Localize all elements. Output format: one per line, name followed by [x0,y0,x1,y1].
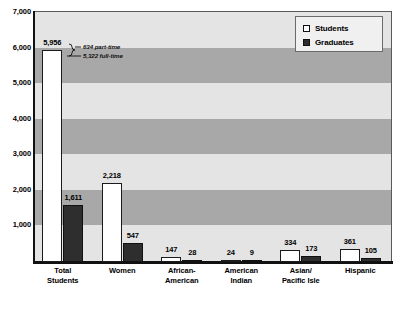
category-label-line: American [212,266,272,276]
bar-value-students-0: 5,956 [36,38,68,47]
bar-graduates-0 [63,205,83,262]
bar-value-graduates-0: 1,611 [57,193,89,202]
bar-graduates-2 [182,260,202,262]
category-label-line: Hispanic [331,266,391,276]
bar-graduates-4 [301,256,321,262]
bar-students-0 [42,50,62,262]
category-label-line: Students [33,276,93,286]
annotation-full-time: 5,322 full-time [83,52,123,59]
bar-value-graduates-3: 9 [236,248,268,257]
category-0: TotalStudents [33,266,93,286]
legend-item-graduates: Graduates [303,35,382,49]
bar-chart: 1,0002,0003,0004,0005,0006,0007,000 5,95… [0,0,405,309]
category-label-line: African- [152,266,212,276]
legend-label-graduates: Graduates [315,38,354,47]
category-label-line: Asian/ [271,266,331,276]
y-tick-7000: 7,000 [1,7,31,16]
dark-square-icon [303,39,310,46]
category-label-line: Indian [212,276,272,286]
y-axis-tick-labels: 1,0002,0003,0004,0005,0006,0007,000 [0,0,31,309]
bar-students-1 [102,183,122,262]
bar-value-students-1: 2,218 [96,171,128,180]
legend-label-students: Students [315,24,348,33]
bar-graduates-3 [242,260,262,262]
category-5: Hispanic [331,266,391,276]
y-tick-3000: 3,000 [1,149,31,158]
bar-value-graduates-4: 173 [295,244,327,253]
white-square-icon [303,25,310,32]
y-tick-6000: 6,000 [1,43,31,52]
bar-students-2 [161,257,181,262]
bar-students-3 [221,260,241,262]
category-label-line: Women [93,266,153,276]
bar-value-students-5: 361 [334,237,366,246]
category-label-line: American [152,276,212,286]
legend-item-students: Students [303,21,382,35]
annotation-part-time: 634 part-time [83,43,120,50]
category-1: Women [93,266,153,276]
y-tick-1000: 1,000 [1,220,31,229]
bar-value-graduates-1: 547 [117,231,149,240]
y-tick-2000: 2,000 [1,185,31,194]
category-label-line: Pacific Isle [271,276,331,286]
y-tick-5000: 5,000 [1,78,31,87]
chart-legend: Students Graduates [295,16,383,52]
category-label-line: Total [33,266,93,276]
x-axis-category-labels: TotalStudentsWomenAfrican-AmericanAmeric… [33,266,392,308]
category-3: AmericanIndian [212,266,272,286]
category-4: Asian/Pacific Isle [271,266,331,286]
bar-value-graduates-5: 105 [355,246,387,255]
bar-graduates-5 [361,258,381,262]
category-2: African-American [152,266,212,286]
y-tick-4000: 4,000 [1,114,31,123]
bar-value-graduates-2: 28 [176,248,208,257]
bar-graduates-1 [123,243,143,262]
